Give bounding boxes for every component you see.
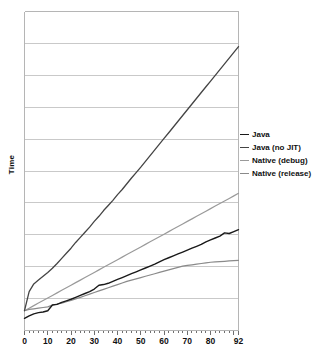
x-axis-tick-label: 40 [106, 336, 130, 346]
x-axis-tick-label: 50 [129, 336, 153, 346]
x-axis-tick-label: 80 [199, 336, 223, 346]
x-axis-tick-label: 92 [227, 336, 251, 346]
legend-item-label: Java [252, 130, 270, 139]
legend-item-label: Native (release) [252, 169, 311, 178]
legend-line-swatch-icon [240, 147, 249, 148]
series-line [25, 230, 239, 319]
legend-item: Java (no JIT) [240, 141, 325, 154]
y-axis-title: Time [7, 145, 16, 185]
legend-line-swatch-icon [240, 160, 249, 161]
series-line [25, 260, 239, 310]
tick-layer [25, 331, 239, 336]
x-axis-tick-label: 20 [59, 336, 83, 346]
series-layer [25, 47, 239, 319]
x-axis-tick-label: 70 [175, 336, 199, 346]
x-axis-tick-label: 10 [36, 336, 60, 346]
series-line [25, 47, 239, 311]
x-axis-tick-label: 30 [82, 336, 106, 346]
legend-item-label: Native (debug) [252, 156, 308, 165]
series-line [25, 193, 239, 310]
legend-line-swatch-icon [240, 134, 249, 135]
x-axis-tick-label: 60 [152, 336, 176, 346]
legend-item: Java [240, 128, 325, 141]
legend-item-label: Java (no JIT) [252, 143, 301, 152]
legend-line-swatch-icon [240, 173, 249, 174]
x-axis-tick-label: 0 [13, 336, 37, 346]
chart-container: Time 0102030405060708092 JavaJava (no JI… [0, 0, 325, 357]
chart-legend: JavaJava (no JIT)Native (debug)Native (r… [240, 128, 325, 180]
legend-item: Native (release) [240, 167, 325, 180]
legend-item: Native (debug) [240, 154, 325, 167]
